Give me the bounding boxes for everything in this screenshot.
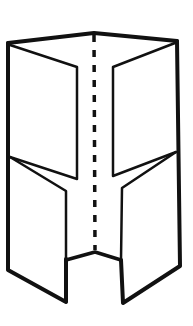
lower-right-panel: [121, 152, 176, 260]
upper-left-panel: [10, 45, 77, 179]
center-fold-dashed-line: [94, 35, 95, 250]
right-outer-edge: [121, 41, 180, 303]
folded-brochure-diagram: [0, 0, 193, 326]
bottom-back-edge: [66, 252, 121, 260]
upper-right-panel: [113, 43, 176, 176]
